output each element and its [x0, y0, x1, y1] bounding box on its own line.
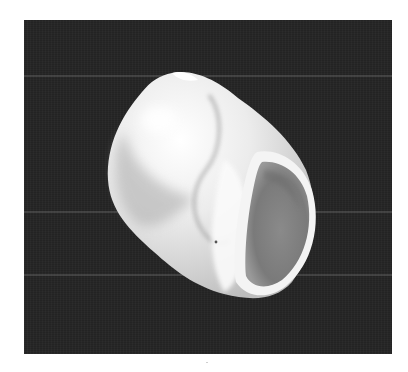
speck-mark	[206, 362, 208, 363]
shell-photo	[24, 20, 392, 354]
snail-shell	[24, 20, 392, 354]
